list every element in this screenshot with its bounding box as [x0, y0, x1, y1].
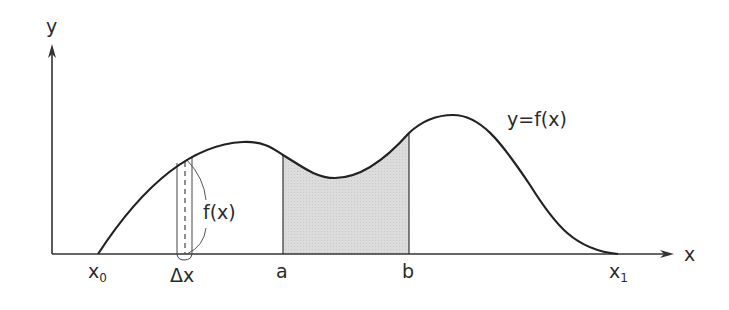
y-axis-label: y	[46, 15, 57, 37]
x1-label: x1	[609, 260, 628, 285]
x0-label: x0	[88, 260, 107, 285]
diagram-canvas: y x y=f(x) f(x) x0 Δx a b x1	[0, 0, 729, 310]
x-axis-label: x	[684, 243, 695, 265]
strip-fx-label: f(x)	[203, 201, 236, 223]
a-label: a	[276, 260, 288, 282]
delta-x-label: Δx	[170, 264, 194, 286]
b-label: b	[402, 260, 414, 282]
curve-label: y=f(x)	[507, 108, 567, 130]
